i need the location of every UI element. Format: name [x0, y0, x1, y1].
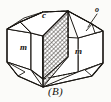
- face-label-c: c: [42, 11, 46, 20]
- face-label-m-left: m: [20, 43, 27, 52]
- crystal-figure: c o m m (B): [0, 0, 111, 102]
- face-label-m-right: m: [75, 47, 82, 56]
- figure-caption: (B): [0, 85, 111, 97]
- face-label-o: o: [95, 6, 99, 14]
